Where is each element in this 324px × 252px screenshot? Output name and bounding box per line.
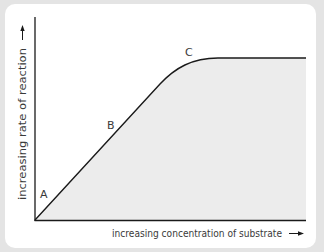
x-axis-arrow-icon — [289, 231, 304, 235]
label-b: B — [107, 119, 115, 132]
x-axis-label: increasing concentration of substrate — [112, 228, 282, 239]
area-under-curve — [35, 58, 306, 220]
y-axis-label: increasing rate of reaction — [17, 48, 28, 200]
label-a: A — [40, 188, 48, 201]
label-c: C — [185, 46, 193, 59]
y-axis-arrow-icon — [20, 25, 24, 40]
chart-svg: A B C increasing concentration of substr… — [0, 0, 324, 252]
